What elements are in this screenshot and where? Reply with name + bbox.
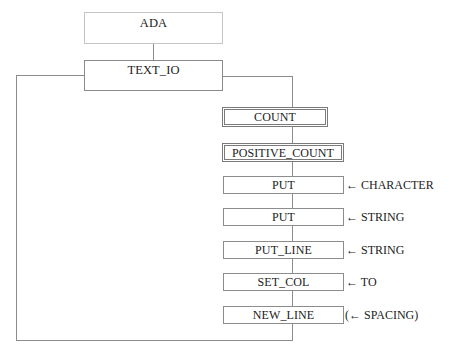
put-line-node: PUT_LINE bbox=[223, 241, 344, 259]
put-line-param: ← STRING bbox=[346, 244, 404, 256]
connector-left-vertical bbox=[16, 75, 17, 341]
set-col-label: SET_COL bbox=[257, 276, 309, 288]
connector-ada-textio bbox=[153, 44, 154, 60]
positive-count-node: POSITIVE_COUNT bbox=[222, 143, 344, 162]
put-character-param: ← CHARACTER bbox=[346, 179, 434, 191]
positive-count-label: POSITIVE_COUNT bbox=[232, 147, 334, 159]
put-character-label: PUT bbox=[272, 179, 295, 191]
count-label: COUNT bbox=[254, 111, 296, 123]
put-string-label: PUT bbox=[272, 211, 295, 223]
put-string-node: PUT bbox=[223, 208, 344, 226]
connector-bottom-horizontal bbox=[16, 340, 293, 341]
set-col-param: ← TO bbox=[346, 276, 377, 288]
connector-right-horizontal bbox=[223, 76, 293, 77]
put-character-node: PUT bbox=[223, 176, 344, 194]
put-line-label: PUT_LINE bbox=[255, 244, 312, 256]
count-node: COUNT bbox=[222, 107, 328, 127]
ada-label: ADA bbox=[140, 17, 167, 30]
set-col-node: SET_COL bbox=[223, 273, 344, 291]
put-string-param: ← STRING bbox=[346, 211, 404, 223]
ada-node: ADA bbox=[84, 12, 223, 44]
text-io-label: TEXT_IO bbox=[127, 64, 179, 77]
text-io-node: TEXT_IO bbox=[84, 60, 223, 91]
new-line-label: NEW_LINE bbox=[253, 309, 314, 321]
connector-left-horizontal bbox=[16, 75, 84, 76]
new-line-node: NEW_LINE bbox=[223, 306, 344, 324]
new-line-param: (← SPACING) bbox=[345, 309, 418, 321]
